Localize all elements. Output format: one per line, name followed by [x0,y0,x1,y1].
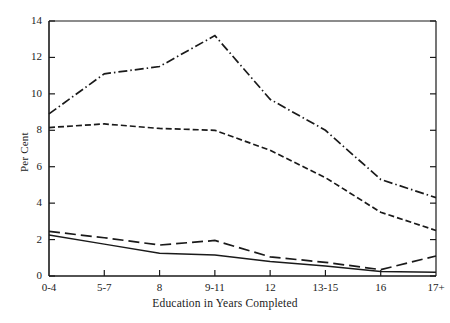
x-tick-label: 16 [356,281,406,293]
series-line-series-1 [49,36,436,198]
x-tick-label: 13-15 [300,281,350,293]
y-tick-label: 2 [24,233,42,245]
x-tick-label: 9-11 [190,281,240,293]
x-axis-title: Education in Years Completed [0,297,450,309]
series-line-series-4 [49,235,436,272]
x-axis-ticks [104,270,380,276]
y-tick-label: 6 [24,160,42,172]
y-tick-label: 12 [24,50,42,62]
y-tick-label: 14 [24,14,42,26]
data-series-group [49,36,436,273]
chart-figure: Per Cent 02468101214 0-45-789-111213-151… [0,0,450,323]
series-line-series-2 [49,124,436,231]
y-tick-label: 8 [24,123,42,135]
x-tick-label: 0-4 [24,281,74,293]
y-tick-label: 10 [24,87,42,99]
y-tick-label: 0 [24,269,42,281]
plot-area [0,0,450,323]
x-tick-label: 8 [135,281,185,293]
x-tick-label: 17+ [411,281,450,293]
x-tick-label: 5-7 [79,281,129,293]
y-tick-label: 4 [24,196,42,208]
x-tick-label: 12 [245,281,295,293]
series-line-series-3 [49,231,436,269]
